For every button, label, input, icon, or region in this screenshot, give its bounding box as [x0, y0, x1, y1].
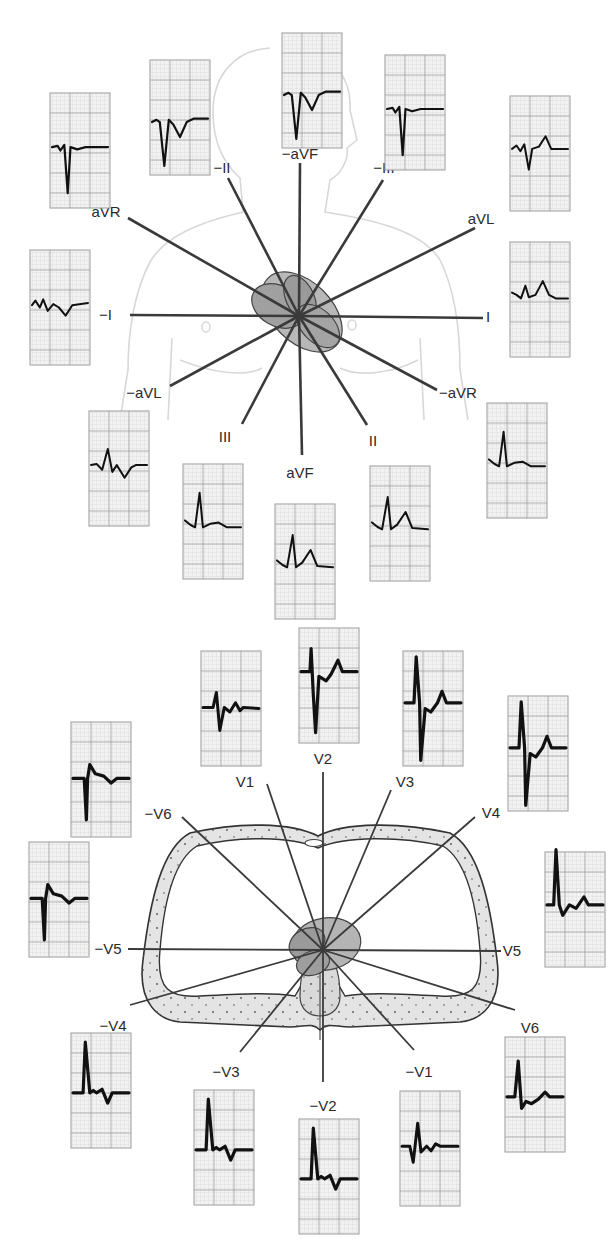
lead-label-neg-i: −I — [99, 306, 112, 323]
ecg-strip-i — [510, 242, 570, 357]
lead-axis-neg-avf — [299, 163, 300, 316]
ecg-strip-v5 — [545, 850, 605, 967]
lead-axis-neg-avr — [299, 316, 437, 390]
lead-label-neg-v6: −V6 — [144, 805, 171, 822]
lead-axis-neg-i — [130, 315, 299, 316]
lead-label-v5: V5 — [503, 942, 521, 959]
lead-label-neg-ii: −II — [213, 159, 230, 176]
ecg-strip-v3 — [403, 651, 463, 766]
lead-label-avf: aVF — [286, 464, 314, 481]
lead-label-neg-v5: −V5 — [94, 940, 121, 957]
ecg-strip-v4 — [508, 696, 568, 811]
lead-label-neg-v3: −V3 — [212, 1063, 239, 1080]
lead-axis-neg-v5 — [128, 949, 323, 950]
ecg-strip-neg-v4 — [71, 1033, 131, 1148]
lead-label-v1: V1 — [236, 773, 254, 790]
ecg-strip-iii — [183, 464, 243, 579]
lead-label-avl: aVL — [468, 210, 495, 227]
lead-label-neg-avr: −aVR — [439, 384, 477, 401]
lead-label-neg-avl: −aVL — [126, 384, 161, 401]
ecg-strip-neg-avf — [282, 33, 342, 148]
lead-label-neg-v4: −V4 — [99, 1017, 126, 1034]
ecg-strip-v6 — [505, 1037, 565, 1152]
ecg-strip-v2 — [299, 628, 359, 743]
ecg-strip-neg-avr — [487, 403, 547, 518]
diagram-canvas: I−IaVL−aVLaVR−aVR−aVFaVF−IIII−IIIIII V1−… — [0, 0, 616, 1240]
ecg-strip-ii — [370, 466, 430, 581]
ecg-strip-avr — [50, 93, 110, 208]
lead-label-v6: V6 — [521, 1019, 539, 1036]
lead-label-v2: V2 — [314, 750, 332, 767]
lead-label-v3: V3 — [396, 773, 414, 790]
ecg-strip-neg-v6 — [71, 722, 131, 837]
ecg-strip-neg-v3 — [194, 1090, 254, 1205]
ecg-strip-v1 — [201, 651, 261, 766]
ecg-strip-neg-iii — [385, 55, 445, 170]
ecg-strip-neg-v1 — [400, 1091, 460, 1206]
lead-label-neg-v1: −V1 — [405, 1063, 432, 1080]
ecg-strip-avl — [510, 96, 570, 211]
ecg-strip-neg-v5 — [29, 842, 89, 957]
ecg-strip-neg-v2 — [299, 1119, 359, 1234]
ecg-lead-diagram: I−IaVL−aVLaVR−aVR−aVFaVF−IIII−IIIIII V1−… — [0, 0, 616, 1240]
lead-label-i: I — [486, 308, 490, 325]
lead-label-iii: III — [219, 428, 232, 445]
lead-label-v4: V4 — [482, 804, 500, 821]
ecg-strip-neg-avl — [89, 411, 149, 526]
ecg-strip-avf — [275, 504, 335, 619]
ecg-strip-neg-i — [30, 250, 90, 365]
ecg-strip-neg-ii — [150, 60, 210, 175]
lead-label-ii: II — [369, 432, 377, 449]
lead-axis-v5 — [323, 950, 501, 951]
lead-label-neg-v2: −V2 — [309, 1097, 336, 1114]
